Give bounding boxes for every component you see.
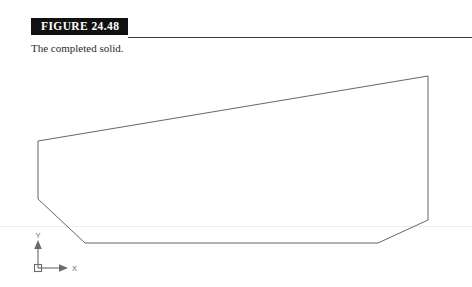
- figure-page: FIGURE 24.48 The completed solid. Y X: [0, 0, 472, 287]
- ucs-x-arrowhead: [59, 264, 68, 272]
- solid-profile-svg: Y X: [0, 0, 472, 287]
- ucs-y-label: Y: [35, 231, 40, 240]
- ucs-icon: Y X: [34, 231, 77, 273]
- ucs-x-label: X: [72, 264, 77, 273]
- cad-drawing-canvas: Y X: [0, 0, 472, 287]
- ucs-y-arrowhead: [34, 240, 42, 249]
- completed-solid-outline: [38, 76, 428, 243]
